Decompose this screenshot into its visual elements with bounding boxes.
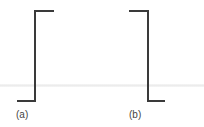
step-diagram [0,0,204,127]
panel-a-step-line [17,11,54,101]
panel-a-label: (a) [16,110,28,120]
panel-b-step-line [129,11,165,101]
panel-b-label: (b) [129,110,141,120]
